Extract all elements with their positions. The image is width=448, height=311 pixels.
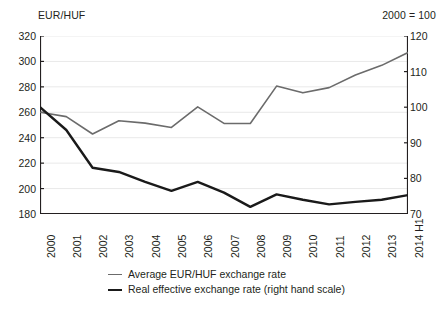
left-tick-240: 240 <box>18 132 36 144</box>
right-tick-80: 80 <box>410 172 422 184</box>
left-tick-200: 200 <box>18 183 36 195</box>
x-label-5: 2005 <box>176 235 188 258</box>
x-label-7: 2007 <box>229 235 241 258</box>
x-label-13: 2013 <box>386 235 398 258</box>
left-axis-title: EUR/HUF <box>38 9 85 21</box>
right-tick-90: 90 <box>410 137 422 149</box>
right-tick-120: 120 <box>410 30 428 42</box>
legend-label-1: Real effective exchange rate (right hand… <box>128 282 345 297</box>
left-tick-220: 220 <box>18 157 36 169</box>
chart-legend: Average EUR/HUF exchange rateReal effect… <box>108 267 345 297</box>
right-axis-ticks: 708090100110120 <box>410 0 444 311</box>
x-label-9: 2009 <box>281 235 293 258</box>
left-tick-280: 280 <box>18 81 36 93</box>
left-axis-ticks: 180200220240260280300320 <box>0 0 36 311</box>
x-label-10: 2010 <box>307 235 319 258</box>
chart-figure: EUR/HUF 2000 = 100 180200220240260280300… <box>0 0 448 311</box>
right-tick-110: 110 <box>410 66 427 78</box>
legend-swatch-1 <box>108 289 122 291</box>
right-tick-100: 100 <box>410 101 428 113</box>
legend-label-0: Average EUR/HUF exchange rate <box>128 267 286 282</box>
x-label-14: 2014 H1 <box>413 218 425 258</box>
x-label-8: 2008 <box>255 235 267 258</box>
plot-area <box>40 36 408 214</box>
plot-svg <box>40 36 408 214</box>
series-line-1 <box>40 107 408 207</box>
left-tick-260: 260 <box>18 106 36 118</box>
left-tick-320: 320 <box>18 30 36 42</box>
x-label-11: 2011 <box>334 235 346 258</box>
x-label-3: 2003 <box>123 235 135 258</box>
x-label-12: 2012 <box>360 235 372 258</box>
series-line-0 <box>40 53 408 135</box>
legend-swatch-0 <box>108 274 122 275</box>
x-label-6: 2006 <box>202 235 214 258</box>
x-label-1: 2001 <box>71 235 83 258</box>
legend-item-1: Real effective exchange rate (right hand… <box>108 282 345 297</box>
legend-item-0: Average EUR/HUF exchange rate <box>108 267 345 282</box>
x-label-4: 2004 <box>150 235 162 258</box>
left-tick-300: 300 <box>18 55 36 67</box>
left-tick-180: 180 <box>18 208 36 220</box>
x-label-2: 2002 <box>97 235 109 258</box>
x-label-0: 2000 <box>45 235 57 258</box>
